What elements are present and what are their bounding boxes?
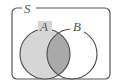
set-b-label: B (73, 19, 81, 34)
set-a-label: A (39, 19, 48, 34)
venn-diagram: S A B (0, 0, 114, 82)
universe-label: S (24, 1, 31, 16)
